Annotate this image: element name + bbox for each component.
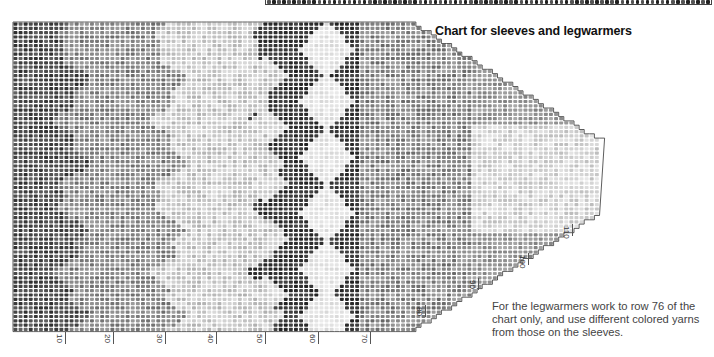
row-label: 10 [55, 334, 64, 343]
row-label: 20 [103, 334, 112, 343]
row-tick [65, 332, 66, 344]
row-tick [165, 332, 166, 344]
row-label: 40 [206, 334, 215, 343]
legwarmers-note: For the legwarmers work to row 76 of the… [492, 300, 714, 339]
row-label: 80 [415, 307, 424, 316]
row-tick [478, 278, 479, 290]
chart-title: Chart for sleeves and legwarmers [435, 24, 632, 38]
row-label: 30 [155, 334, 164, 343]
row-label: 100 [518, 255, 527, 268]
row-label: 70 [360, 334, 369, 343]
row-tick [216, 332, 217, 344]
row-tick [265, 332, 266, 344]
row-tick [425, 305, 426, 317]
row-label: 50 [255, 334, 264, 343]
row-tick [528, 253, 529, 265]
row-label: 60 [308, 334, 317, 343]
row-tick [370, 332, 371, 344]
row-tick [318, 332, 319, 344]
row-tick [572, 224, 573, 236]
row-label: 110 [562, 226, 571, 239]
row-label: 90 [468, 280, 477, 289]
row-tick [113, 332, 114, 344]
